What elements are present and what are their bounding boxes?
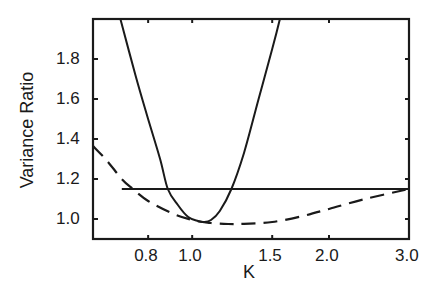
y-tick-label: 1.6 — [56, 89, 80, 109]
x-tick-label: 2.0 — [315, 246, 339, 266]
series-dashed-curve — [93, 146, 409, 224]
x-tick-label: 1.5 — [258, 246, 282, 266]
variance-ratio-chart — [0, 0, 435, 302]
x-tick-label: 0.8 — [134, 246, 158, 266]
series-solid-curve — [120, 19, 280, 222]
x-axis-label: K — [243, 262, 255, 283]
plot-lines — [93, 19, 409, 224]
y-tick-label: 1.4 — [56, 129, 80, 149]
y-axis-label-wrap: Variance Ratio — [12, 40, 42, 220]
y-tick-label: 1.0 — [56, 209, 80, 229]
y-axis-label: Variance Ratio — [17, 72, 38, 189]
y-tick-label: 1.8 — [56, 49, 80, 69]
y-tick-label: 1.2 — [56, 169, 80, 189]
x-tick-label: 1.0 — [178, 246, 202, 266]
x-tick-label: 3.0 — [395, 246, 419, 266]
